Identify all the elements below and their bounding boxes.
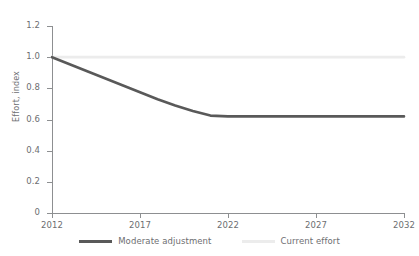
legend-item[interactable]: Moderate adjustment xyxy=(79,236,211,246)
legend-label: Current effort xyxy=(281,236,340,246)
plot-area xyxy=(0,0,419,256)
legend-item[interactable]: Current effort xyxy=(242,236,340,246)
legend-swatch-icon xyxy=(79,240,112,243)
legend-label: Moderate adjustment xyxy=(118,236,211,246)
legend-swatch-icon xyxy=(242,240,275,243)
chart-container: Effort, index 00.20.40.60.81.01.2 201220… xyxy=(0,0,419,256)
chart-legend: Moderate adjustmentCurrent effort xyxy=(0,236,419,246)
series-line xyxy=(52,57,404,116)
